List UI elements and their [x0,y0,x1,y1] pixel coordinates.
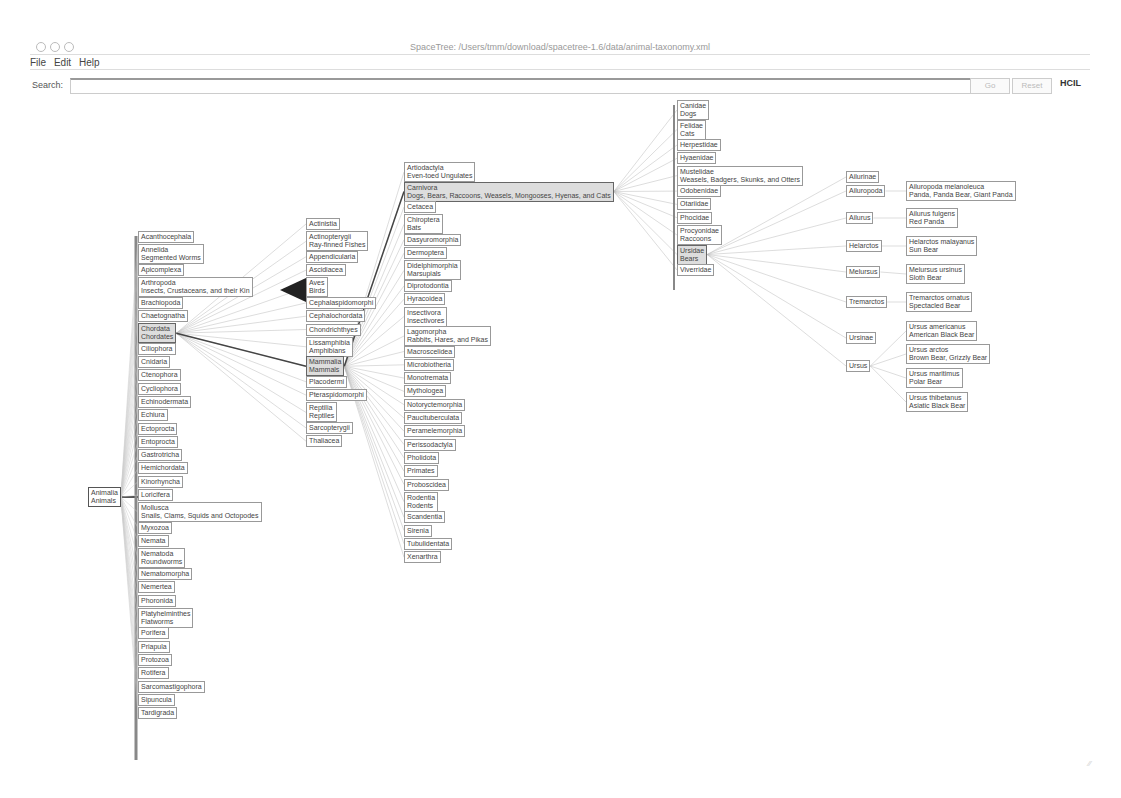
tree-node-phylum[interactable]: Priapula [138,641,170,653]
tree-node-order[interactable]: Diprotodontia [404,280,452,292]
tree-node-phylum[interactable]: Kinorhyncha [138,476,183,488]
tree-node-order[interactable]: Dermoptera [404,247,447,259]
tree-node-phylum[interactable]: Acanthocephala [138,231,194,243]
tree-node-class[interactable]: MammaliaMammals [306,356,344,376]
tree-node-order[interactable]: Sirenia [404,525,432,537]
tree-node-family[interactable]: CanidaeDogs [677,100,709,120]
tree-node-species[interactable]: Ursus maritimusPolar Bear [906,368,963,388]
tree-node-phylum[interactable]: Chaetognatha [138,310,188,322]
tree-node-class[interactable]: Actinistia [306,218,340,230]
tree-node-phylum[interactable]: Loricifera [138,489,173,501]
tree-node-class[interactable]: ActinopterygiiRay-finned Fishes [306,231,368,251]
tree-node-order[interactable]: Xenarthra [404,551,441,563]
tree-node-species[interactable]: Ursus americanusAmerican Black Bear [906,321,977,341]
tree-node-order[interactable]: ChiropteraBats [404,214,443,234]
tree-node-family[interactable]: Phocidae [677,212,712,224]
tree-node-phylum[interactable]: AnnelidaSegmented Worms [138,244,204,264]
tree-node-class[interactable]: Cephalaspidomorphi [306,297,376,309]
tree-node-genus[interactable]: Tremarctos [846,296,887,308]
tree-node-phylum[interactable]: Cnidaria [138,356,170,368]
tree-node-phylum[interactable]: Gastrotricha [138,449,182,461]
tree-node-phylum[interactable]: Cycliophora [138,383,181,395]
tree-node-family[interactable]: FelidaeCats [677,120,706,140]
tree-node-phylum[interactable]: NematodaRoundworms [138,548,185,568]
tree-node-order[interactable]: Macroscelidea [404,346,455,358]
tree-node-phylum[interactable]: Sarcomastigophora [138,681,205,693]
tree-node-class[interactable]: Ascidiacea [306,264,346,276]
tree-node-phylum[interactable]: ChordataChordates [138,323,176,343]
tree-node-order[interactable]: ArtiodactylaEven-toed Ungulates [404,162,475,182]
tree-node-phylum[interactable]: Rotifera [138,667,169,679]
tree-node-order[interactable]: Pholidota [404,452,439,464]
tree-node-genus[interactable]: Ursus [846,360,870,372]
tree-node-species[interactable]: Ursus thibetanusAsiatic Black Bear [906,392,968,412]
tree-node-genus[interactable]: Helarctos [846,240,882,252]
tree-node-phylum[interactable]: Echinodermata [138,396,191,408]
tree-node-genus[interactable]: Ailurinae [846,171,879,183]
tree-node-phylum[interactable]: Ctenophora [138,369,181,381]
tree-node-class[interactable]: Appendicularia [306,251,358,263]
tree-node-phylum[interactable]: Tardigrada [138,707,177,719]
tree-node-family[interactable]: Odobenidae [677,185,721,197]
tree-node-order[interactable]: Proboscidea [404,479,449,491]
tree-node-phylum[interactable]: Entoprocta [138,436,178,448]
tree-node-phylum[interactable]: Hemichordata [138,462,188,474]
tree-node-family[interactable]: MustelidaeWeasels, Badgers, Skunks, and … [677,166,803,186]
tree-node-genus[interactable]: Ursinae [846,332,876,344]
tree-node-order[interactable]: Dasyuromorphia [404,234,461,246]
tree-node-order[interactable]: LagomorphaRabbits, Hares, and Pikas [404,326,491,346]
tree-node-species[interactable]: Helarctos malayanusSun Bear [906,236,977,256]
tree-node-species[interactable]: Tremarctos ornatusSpectacled Bear [906,292,972,312]
tree-node-order[interactable]: Scandentia [404,511,445,523]
tree-node-phylum[interactable]: Ectoprocta [138,423,177,435]
collapsed-subtree-indicator-icon[interactable] [280,278,306,302]
tree-node-species[interactable]: Ailurus fulgensRed Panda [906,208,958,228]
tree-node-order[interactable]: Paucituberculata [404,412,462,424]
tree-node-phylum[interactable]: Ciliophora [138,343,176,355]
tree-node-genus[interactable]: Ailuropoda [846,185,885,197]
tree-node-phylum[interactable]: PlatyhelminthesFlatworms [138,608,193,628]
tree-node-class[interactable]: Chondrichthyes [306,324,361,336]
resize-grip[interactable]: ⁄⁄ [1088,759,1091,768]
tree-node-family[interactable]: Otariidae [677,198,711,210]
tree-node-phylum[interactable]: Nemertea [138,581,175,593]
tree-node-family[interactable]: Hyaenidae [677,152,716,164]
tree-node-genus[interactable]: Melursus [846,266,880,278]
tree-node-class[interactable]: Sarcopterygii [306,422,353,434]
tree-node-phylum[interactable]: Myxozoa [138,522,172,534]
tree-node-class[interactable]: Placodermi [306,376,347,388]
tree-node-phylum[interactable]: Echiura [138,409,168,421]
tree-node-phylum[interactable]: MolluscaSnails, Clams, Squids and Octopo… [138,502,262,522]
tree-node-phylum[interactable]: Nematomorpha [138,568,192,580]
tree-canvas[interactable]: AnimaliaAnimalsAcanthocephalaAnnelidaSeg… [0,0,1121,798]
tree-node-order[interactable]: RodentiaRodents [404,492,438,512]
tree-node-phylum[interactable]: Porifera [138,627,169,639]
tree-node-species[interactable]: Melursus ursinusSloth Bear [906,264,965,284]
tree-node-family[interactable]: Viverridae [677,264,714,276]
tree-node-phylum[interactable]: Protozoa [138,654,172,666]
tree-node-order[interactable]: Cetacea [404,201,436,213]
tree-node-order[interactable]: Perissodactyla [404,439,456,451]
tree-node-class[interactable]: ReptiliaReptiles [306,402,337,422]
tree-node-order[interactable]: Microbiotheria [404,359,454,371]
tree-node-phylum[interactable]: Sipuncula [138,694,175,706]
tree-node-species[interactable]: Ursus arctosBrown Bear, Grizzly Bear [906,344,990,364]
tree-node-order[interactable]: Primates [404,465,438,477]
tree-node-genus[interactable]: Ailurus [846,212,873,224]
tree-node-order[interactable]: InsectivoraInsectivores [404,307,447,327]
tree-node-phylum[interactable]: ArthropodaInsects, Crustaceans, and thei… [138,277,253,297]
tree-node-order[interactable]: Tubulidentata [404,538,452,550]
tree-node-order[interactable]: Hyracoidea [404,293,445,305]
tree-node-class[interactable]: Cephalochordata [306,310,365,322]
tree-node-family[interactable]: UrsidaeBears [677,245,707,265]
tree-node-phylum[interactable]: Nemata [138,535,169,547]
tree-node-order[interactable]: CarnivoraDogs, Bears, Raccoons, Weasels,… [404,182,614,202]
tree-node-order[interactable]: Notoryctemorphia [404,399,465,411]
tree-node-order[interactable]: Peramelemorphia [404,425,465,437]
tree-node-phylum[interactable]: Phoronida [138,595,176,607]
tree-node-class[interactable]: Pteraspidomorphi [306,389,367,401]
tree-node-family[interactable]: ProcyonidaeRaccoons [677,225,722,245]
tree-node-class[interactable]: Thaliacea [306,435,342,447]
tree-node-phylum[interactable]: Brachiopoda [138,297,183,309]
tree-node-phylum[interactable]: Apicomplexa [138,264,184,276]
